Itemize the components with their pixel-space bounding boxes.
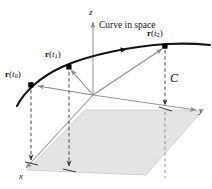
y-axis-label: y (199, 106, 203, 115)
vector-r-t1 (71, 70, 93, 95)
y-axis-line (93, 95, 196, 110)
point-r-t2 (162, 43, 167, 48)
curve-label-c: C (170, 72, 178, 84)
vector-r-t0 (38, 86, 93, 95)
point-r-t1 (66, 64, 71, 69)
vector-label-r-t1-close: ) (58, 49, 61, 59)
xy-plane (27, 110, 203, 175)
x-axis-label: x (19, 172, 23, 181)
vector-curve-diagram: Curve in space z y x C r(t0) r(t1) r(t2) (0, 0, 212, 189)
vector-label-r-t0: r(t0) (5, 70, 21, 80)
vector-label-r-t2-close: ) (160, 28, 163, 38)
vector-label-r-t2: r(t2) (147, 29, 163, 39)
vector-label-r-t0-close: ) (18, 69, 21, 79)
point-r-t0 (28, 82, 33, 87)
vector-label-r-t1: r(t1) (45, 50, 61, 60)
vector-r-t2 (93, 49, 162, 95)
z-axis-label: z (89, 8, 93, 17)
